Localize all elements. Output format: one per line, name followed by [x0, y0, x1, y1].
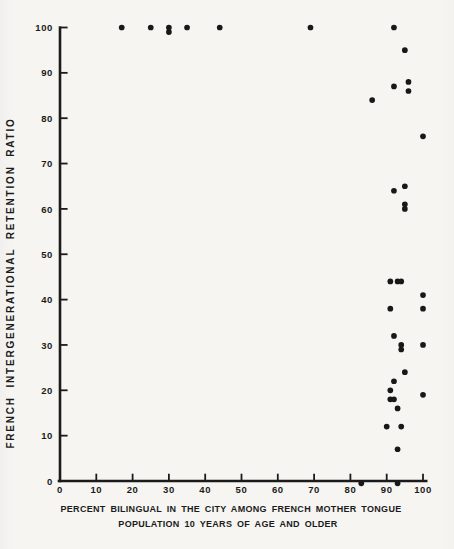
data-point [358, 480, 364, 486]
y-tick-label: 30 [41, 340, 53, 351]
y-tick-label: 40 [41, 294, 53, 305]
data-point [395, 480, 401, 486]
x-tick-label: 70 [308, 484, 320, 495]
data-point [184, 25, 190, 31]
x-axis-title-line2: POPULATION 10 YEARS OF AGE AND OLDER [118, 519, 337, 529]
data-point [420, 342, 426, 348]
data-point [406, 79, 412, 85]
data-point [217, 25, 223, 31]
x-axis: 0102030405060708090100 [57, 474, 432, 495]
data-point [398, 347, 404, 353]
x-tick-label: 20 [127, 484, 139, 495]
data-point [402, 47, 408, 53]
data-point [391, 333, 397, 339]
data-point [391, 378, 397, 384]
y-axis: 0102030405060708090100 [35, 22, 67, 487]
y-tick-label: 90 [41, 67, 53, 78]
data-point [119, 25, 125, 31]
x-tick-label: 10 [90, 484, 102, 495]
x-tick-label: 0 [57, 484, 63, 495]
y-tick-label: 20 [41, 385, 53, 396]
data-point [398, 279, 404, 285]
data-point [166, 29, 172, 35]
data-point [391, 397, 397, 403]
data-point [387, 279, 393, 285]
data-point [420, 133, 426, 139]
data-point [406, 88, 412, 94]
x-tick-label: 100 [414, 484, 432, 495]
x-tick-label: 30 [163, 484, 175, 495]
y-tick-label: 10 [41, 430, 53, 441]
data-point [387, 306, 393, 312]
data-point [384, 424, 390, 430]
data-point [391, 188, 397, 194]
data-points [119, 25, 426, 487]
data-point [391, 84, 397, 90]
x-tick-label: 40 [199, 484, 211, 495]
data-point [387, 387, 393, 393]
data-point [395, 406, 401, 412]
data-point [420, 292, 426, 298]
data-point [402, 206, 408, 212]
data-point [402, 183, 408, 189]
data-point [308, 25, 314, 31]
data-point [402, 369, 408, 375]
scatter-plot-figure: 0102030405060708090100010203040506070809… [0, 0, 454, 549]
x-tick-label: 80 [345, 484, 357, 495]
data-point [391, 25, 397, 31]
data-point [420, 392, 426, 398]
data-point [395, 446, 401, 452]
y-tick-label: 100 [35, 22, 53, 33]
y-tick-label: 0 [47, 476, 53, 487]
data-point [369, 97, 375, 103]
x-axis-title-line1: PERCENT BILINGUAL IN THE CITY AMONG FREN… [61, 504, 402, 514]
y-tick-label: 60 [41, 204, 53, 215]
x-tick-label: 60 [272, 484, 284, 495]
chart-canvas: 0102030405060708090100010203040506070809… [0, 0, 454, 549]
y-tick-label: 70 [41, 158, 53, 169]
y-tick-label: 50 [41, 249, 53, 260]
y-axis-title: FRENCH INTERGENERATIONAL RETENTION RATIO [5, 117, 16, 448]
data-point [398, 424, 404, 430]
data-point [420, 306, 426, 312]
x-tick-label: 90 [381, 484, 393, 495]
x-tick-label: 50 [236, 484, 248, 495]
y-tick-label: 80 [41, 113, 53, 124]
data-point [148, 25, 154, 31]
